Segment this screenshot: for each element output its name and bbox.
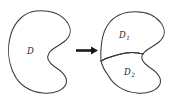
right-region-group: [101, 12, 164, 93]
figure-canvas: [0, 0, 172, 98]
figure-container: D D1 D2: [0, 0, 172, 98]
label-region-d1: D1: [119, 31, 130, 40]
label-region-d2-base: D: [124, 67, 131, 77]
left-region-group: [9, 11, 71, 93]
label-region-d1-subscript: 1: [126, 35, 130, 41]
label-region-d-base: D: [27, 46, 34, 56]
arrow-group: [76, 47, 98, 55]
region-d-outline: [9, 11, 71, 93]
label-region-d: D: [27, 47, 34, 56]
label-region-d2-subscript: 2: [131, 72, 135, 78]
label-region-d1-base: D: [119, 30, 126, 40]
label-region-d2: D2: [124, 68, 135, 77]
arrow-head: [91, 47, 98, 55]
